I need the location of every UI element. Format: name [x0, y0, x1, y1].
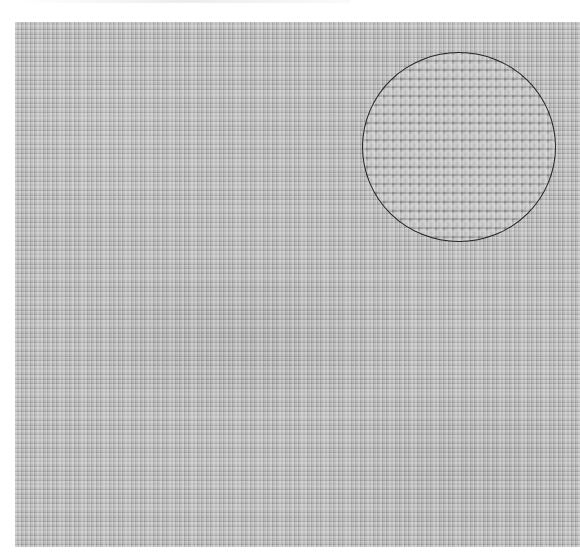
top-edge-sliver: [20, 0, 350, 3]
magnifier-inset: magnified weave detail: [362, 52, 556, 242]
image-description: Close-up photograph of light gray plain-…: [15, 22, 16, 23]
